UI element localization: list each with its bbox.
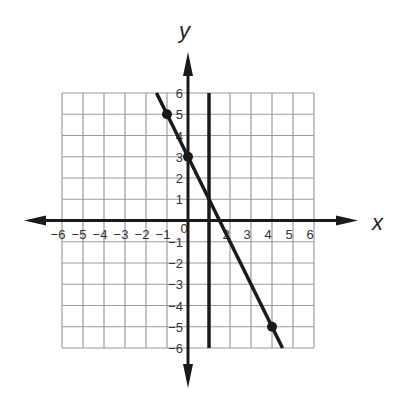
y-tick-label: 5 [176,107,183,122]
x-tick-label: 6 [306,227,313,242]
data-point [267,322,277,332]
x-tick-label: −3 [114,227,129,242]
x-tick-label: 4 [264,227,271,242]
x-axis-right-arrow-icon [336,216,358,226]
axes [24,52,358,388]
y-tick-label: −5 [168,320,183,335]
y-axis-down-arrow-icon [183,364,193,388]
data-point [183,152,193,162]
y-tick-label: 6 [176,86,183,101]
y-tick-label: −2 [168,256,183,271]
coordinate-plane: −6−5−4−3−2−1023456654321−1−2−3−4−5−6 x y [0,0,393,396]
y-tick-label: 1 [176,192,183,207]
x-axis-label: x [371,210,384,235]
x-tick-label: 0 [180,221,187,236]
y-tick-label: −3 [168,277,183,292]
data-point [162,109,172,119]
y-tick-label: −4 [168,299,183,314]
y-tick-label: −1 [168,235,183,250]
y-tick-label: −6 [168,341,183,356]
x-tick-label: −6 [51,227,66,242]
y-tick-label: 2 [176,171,183,186]
x-tick-label: 5 [285,227,292,242]
x-tick-label: 3 [243,227,250,242]
y-tick-label: 3 [176,150,183,165]
x-axis-left-arrow-icon [24,216,46,226]
x-tick-label: −2 [135,227,150,242]
y-axis-label: y [177,18,192,43]
x-tick-label: −4 [93,227,108,242]
x-tick-label: −5 [72,227,87,242]
y-axis-up-arrow-icon [183,52,193,76]
